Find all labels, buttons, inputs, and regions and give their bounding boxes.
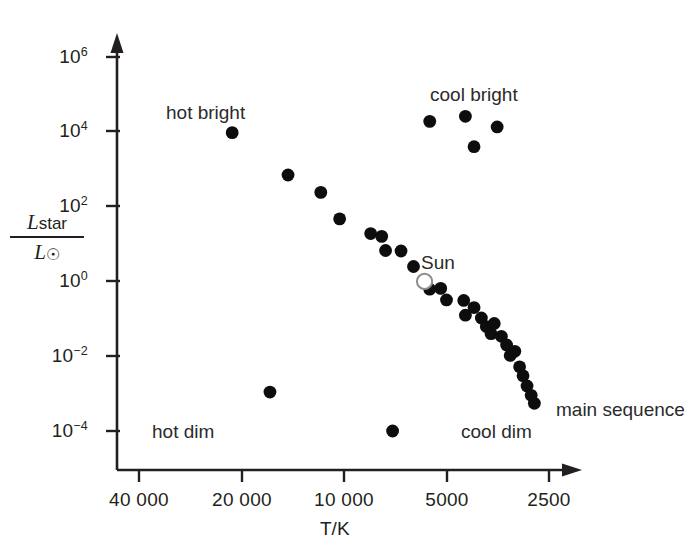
y-tick-label-1em2: 10−2	[52, 346, 88, 365]
fraction-bar	[10, 236, 84, 238]
x-axis	[117, 464, 582, 477]
y-axis-title: Lstar L☉	[10, 210, 84, 265]
annotation-main-sequence: main sequence	[556, 400, 685, 419]
y-axis-denominator: L☉	[10, 240, 84, 264]
star-marker	[282, 169, 295, 182]
x-tick-label-5000: 5000	[397, 490, 497, 509]
star-marker	[364, 227, 377, 240]
star-marker	[434, 282, 447, 295]
annotation-cool-dim: cool dim	[461, 422, 532, 441]
star-marker	[333, 212, 346, 225]
star-marker	[395, 245, 408, 258]
y-tick-label-1e4: 104	[59, 121, 88, 140]
y-axis-numerator: Lstar	[10, 210, 84, 235]
x-tick-label-40000: 40 000	[89, 490, 189, 509]
star-marker	[226, 126, 239, 139]
star-marker	[459, 110, 472, 123]
star-marker	[386, 425, 399, 438]
star-marker	[375, 230, 388, 243]
star-marker	[379, 244, 392, 257]
annotation-cool-bright: cool bright	[430, 85, 518, 104]
y-tick-label-1em4: 10−4	[52, 421, 88, 440]
x-tick-label-10000: 10 000	[294, 490, 394, 509]
x-tick-label-20000: 20 000	[192, 490, 292, 509]
star-marker	[264, 386, 277, 399]
star-marker	[407, 260, 420, 273]
star-marker	[423, 115, 436, 128]
star-marker	[528, 397, 541, 410]
x-tick-label-2500: 2500	[499, 490, 599, 509]
data-points	[226, 110, 541, 438]
hr-diagram-figure: 106 104 102 100 10−2 10−4 Lstar L☉ 40 00…	[0, 0, 696, 547]
y-axis	[111, 33, 124, 470]
annotation-sun: Sun	[421, 253, 455, 272]
plot-canvas	[0, 0, 696, 547]
y-tick-label-1e0: 100	[59, 271, 88, 290]
x-axis-ticks	[139, 470, 549, 482]
star-marker	[491, 121, 504, 134]
x-axis-title: T/K	[320, 519, 350, 538]
annotation-hot-dim: hot dim	[152, 422, 214, 441]
star-marker	[508, 345, 521, 358]
star-marker	[314, 186, 327, 199]
star-marker	[457, 294, 470, 307]
sun-marker	[417, 274, 432, 289]
star-marker	[459, 309, 472, 322]
star-marker	[468, 140, 481, 153]
star-marker	[440, 294, 453, 307]
annotation-hot-bright: hot bright	[166, 103, 245, 122]
y-tick-label-1e6: 106	[59, 47, 88, 66]
